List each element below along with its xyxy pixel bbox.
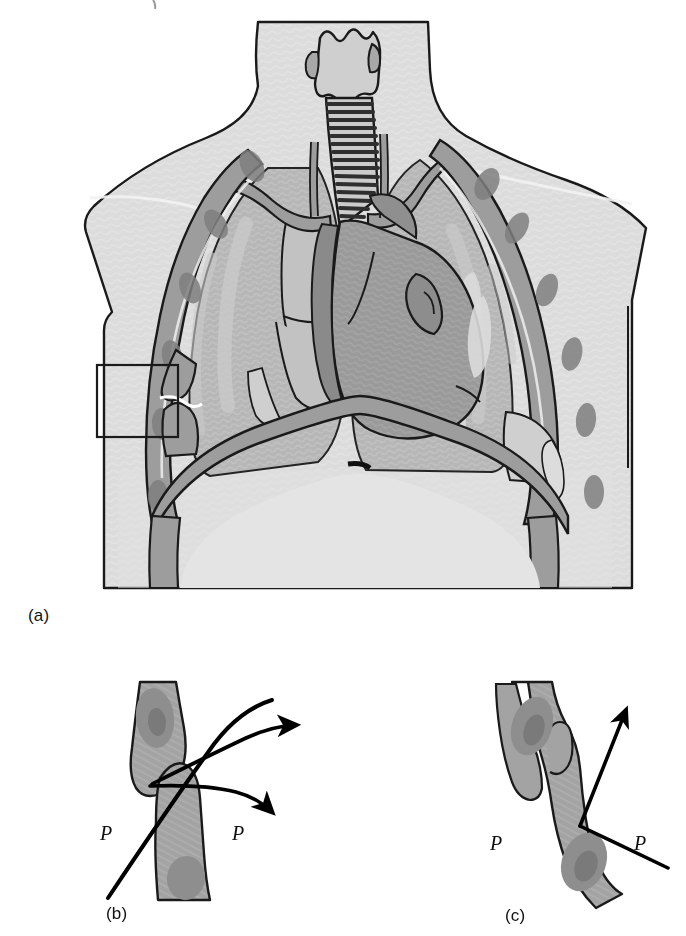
panel-a-caption: (a) [28, 606, 49, 626]
figure-rib-fracture [0, 0, 686, 936]
panel-a-thorax [85, 0, 646, 588]
larynx-horn-right [368, 44, 380, 72]
costal-margin-left [149, 516, 180, 588]
vessel-vertical-left [313, 142, 314, 216]
pressure-label-c-right: P [634, 832, 646, 855]
panel-b-caption: (b) [106, 904, 127, 924]
pressure-label-b-right: P [232, 822, 244, 845]
force-arrow-up-c [580, 710, 626, 826]
pressure-label-c-left: P [490, 832, 502, 855]
panel-c-caption: (c) [505, 906, 525, 926]
larynx-horn-left [306, 52, 319, 78]
panel-b-displaced-fracture [108, 682, 296, 902]
pressure-label-b-left: P [100, 822, 112, 845]
panel-c-overriding-fracture [496, 682, 668, 908]
scan-artifact [153, 0, 155, 9]
